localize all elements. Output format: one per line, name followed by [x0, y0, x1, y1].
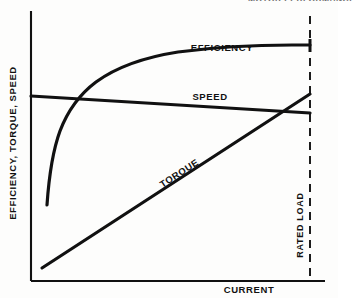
torque-curve-label: TORQUE [158, 156, 201, 189]
speed-curve-label: SPEED [192, 91, 227, 102]
rated-load-label: RATED LOAD [295, 192, 305, 257]
efficiency-curve-label: EFFICIENCY [191, 42, 254, 53]
y-axis-title: EFFICIENCY, TORQUE, SPEED [7, 66, 18, 220]
x-axis-title: CURRENT [224, 284, 275, 295]
